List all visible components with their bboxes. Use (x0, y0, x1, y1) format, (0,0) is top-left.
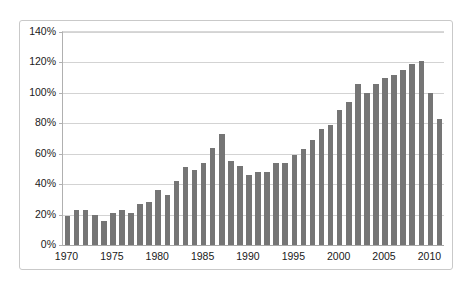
bar (137, 204, 143, 245)
bar (282, 163, 288, 245)
bar (346, 102, 352, 245)
bar (319, 129, 325, 245)
bar (74, 210, 80, 245)
bar (83, 210, 89, 245)
bar (273, 163, 279, 245)
x-tick-label: 2005 (364, 250, 404, 262)
bar (292, 155, 298, 245)
bar (400, 70, 406, 245)
bar (364, 93, 370, 245)
bar (301, 149, 307, 245)
bar (110, 213, 116, 245)
bar (310, 140, 316, 245)
bar (437, 119, 443, 245)
bar (165, 195, 171, 245)
bar (92, 215, 98, 245)
bar (255, 172, 261, 245)
bar (373, 84, 379, 245)
bar (264, 172, 270, 245)
y-tick-label: 0% (10, 239, 56, 249)
y-tick-label: 40% (10, 178, 56, 188)
bar (210, 148, 216, 245)
bar (428, 93, 434, 245)
chart-figure: 0%20%40%60%80%100%120%140% 1970197519801… (0, 0, 473, 287)
y-tick-label: 140% (10, 26, 56, 36)
x-tick-label: 1985 (183, 250, 223, 262)
bar (419, 61, 425, 245)
x-tick-label: 1975 (92, 250, 132, 262)
y-axis-labels: 0%20%40%60%80%100%120%140% (8, 31, 56, 245)
x-tick-label: 1970 (47, 250, 87, 262)
bar (409, 64, 415, 245)
bar (101, 221, 107, 245)
bar (146, 202, 152, 245)
bar (183, 167, 189, 245)
x-tick-label: 1990 (228, 250, 268, 262)
bar (128, 213, 134, 245)
bar (219, 134, 225, 245)
bar (237, 166, 243, 245)
bar-series (63, 32, 444, 245)
x-axis-labels: 197019751980198519901995200020052010 (62, 250, 444, 266)
y-tick-label: 20% (10, 209, 56, 219)
bar (246, 175, 252, 245)
bar (201, 163, 207, 245)
bar (228, 161, 234, 245)
gridline-0pct (63, 245, 444, 246)
bar (174, 181, 180, 245)
y-tick-label: 60% (10, 148, 56, 158)
plot-area (62, 31, 444, 245)
bar (119, 210, 125, 245)
bar (382, 78, 388, 245)
bar (65, 216, 71, 245)
y-tick-label: 80% (10, 117, 56, 127)
y-tick-label: 100% (10, 87, 56, 97)
x-tick-label: 1995 (273, 250, 313, 262)
x-tick-label: 2010 (409, 250, 449, 262)
bar (192, 170, 198, 245)
bar (355, 84, 361, 245)
x-tick-label: 2000 (319, 250, 359, 262)
bar (391, 75, 397, 245)
y-tick-mark (59, 245, 63, 246)
bar (155, 190, 161, 245)
bar (328, 125, 334, 245)
bar (337, 110, 343, 245)
x-tick-label: 1980 (137, 250, 177, 262)
y-tick-label: 120% (10, 56, 56, 66)
